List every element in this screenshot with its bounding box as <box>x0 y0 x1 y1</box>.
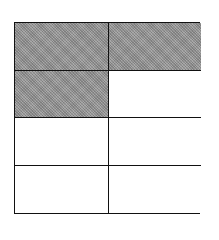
grid-cell-r3-c1 <box>109 166 201 214</box>
fraction-grid <box>14 22 200 214</box>
grid-cell-r2-c0 <box>15 118 109 166</box>
grid-cell-r1-c1 <box>109 71 201 119</box>
grid-cell-r1-c0-shaded <box>15 71 109 119</box>
grid-cell-r2-c1 <box>109 118 201 166</box>
grid-cell-r3-c0 <box>15 166 109 214</box>
grid-cell-r0-c1-shaded <box>109 23 201 71</box>
grid-cell-r0-c0-shaded <box>15 23 109 71</box>
